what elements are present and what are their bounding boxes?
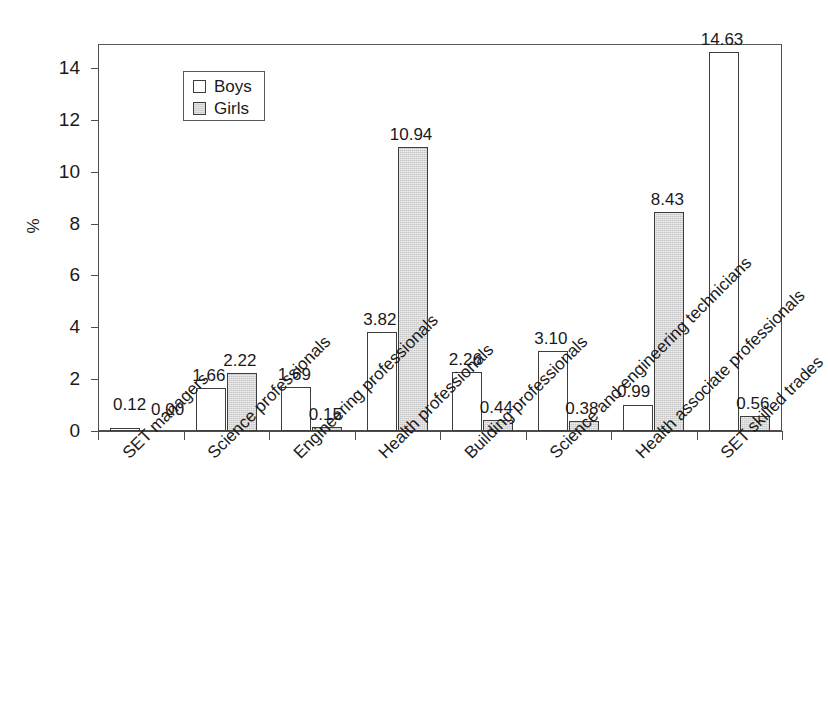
legend-label-girls: Girls — [214, 100, 249, 117]
x-axis-tick — [184, 431, 185, 440]
y-axis-tick — [91, 431, 98, 432]
legend: Boys Girls — [183, 71, 265, 121]
y-axis-title: % — [24, 218, 44, 233]
y-axis-tick — [91, 172, 98, 173]
x-axis-tick — [697, 431, 698, 440]
x-axis-tick — [526, 431, 527, 440]
white-square-icon — [193, 80, 206, 93]
bar-girls — [398, 147, 428, 431]
y-axis-tick — [91, 224, 98, 225]
x-axis-tick — [98, 431, 99, 440]
x-axis-tick — [440, 431, 441, 440]
y-axis-tick-label: 2 — [36, 369, 80, 388]
x-axis-tick — [355, 431, 356, 440]
bar-value-label: 14.63 — [701, 31, 744, 48]
y-axis-tick — [91, 379, 98, 380]
bar-value-label: 2.22 — [223, 352, 256, 369]
legend-label-boys: Boys — [214, 78, 252, 95]
x-axis-tick — [782, 431, 783, 440]
bar-boys — [623, 405, 653, 431]
y-axis-line — [98, 44, 99, 431]
bar-value-label: 8.43 — [651, 191, 684, 208]
x-axis-tick — [611, 431, 612, 440]
y-axis-tick-label: 10 — [36, 162, 80, 181]
bar-value-label: 3.10 — [534, 330, 567, 347]
y-axis-tick-label: 4 — [36, 317, 80, 336]
y-axis-tick — [91, 120, 98, 121]
y-axis-tick — [91, 68, 98, 69]
legend-item-girls: Girls — [193, 100, 249, 117]
y-axis-tick-label: 0 — [36, 421, 80, 440]
y-axis-tick — [91, 327, 98, 328]
y-axis-tick-label: 12 — [36, 110, 80, 129]
bar-value-label: 3.82 — [363, 311, 396, 328]
y-axis-tick-label: 14 — [36, 58, 80, 77]
bar-value-label: 0.12 — [113, 396, 146, 413]
y-axis-tick-label: 6 — [36, 265, 80, 284]
gray-square-icon — [193, 102, 206, 115]
bar-value-label: 10.94 — [390, 126, 433, 143]
y-axis-tick — [91, 275, 98, 276]
legend-item-boys: Boys — [193, 78, 252, 95]
x-axis-tick — [269, 431, 270, 440]
